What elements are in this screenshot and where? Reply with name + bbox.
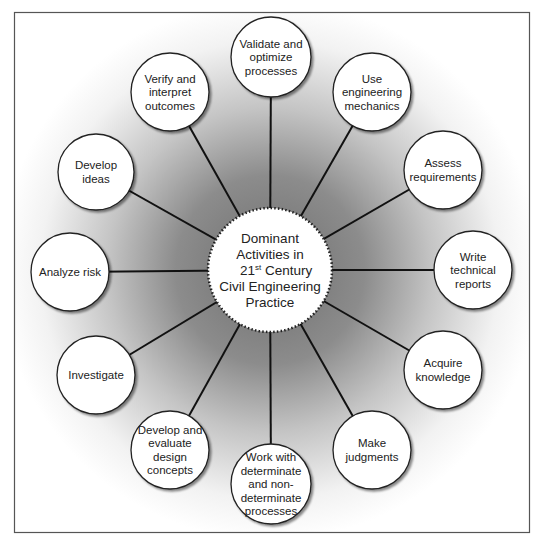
node-verify: Verify andinterpretoutcomes (131, 53, 209, 131)
node-label: Acquireknowledge (416, 357, 471, 383)
hub-node: DominantActivities in21st CenturyCivil E… (208, 208, 332, 332)
node-label: Verify andinterpretoutcomes (144, 73, 195, 112)
node-work-with: Work withdeterminateand non-determinatep… (231, 444, 311, 524)
node-label: Analyze risk (39, 266, 101, 278)
node-judgments: Makejudgments (333, 411, 411, 489)
node-analyze-risk: Analyze risk (31, 233, 109, 311)
node-develop-ideas: Developideas (58, 134, 134, 210)
node-assess: Assessrequirements (404, 131, 482, 209)
node-label: Investigate (68, 369, 124, 381)
node-label: Work withdeterminateand non-determinatep… (241, 451, 302, 517)
node-validate: Validate andoptimizeprocesses (231, 17, 311, 97)
node-investigate: Investigate (57, 336, 135, 414)
node-write-reports: Writetechnicalreports (434, 231, 512, 309)
activities-diagram: Validate andoptimizeprocessesUseengineer… (0, 0, 544, 548)
node-use-mechanics: Useengineeringmechanics (333, 53, 411, 131)
node-develop-evaluate: Develop andevaluatedesignconcepts (131, 411, 209, 489)
node-acquire: Acquireknowledge (404, 331, 482, 409)
